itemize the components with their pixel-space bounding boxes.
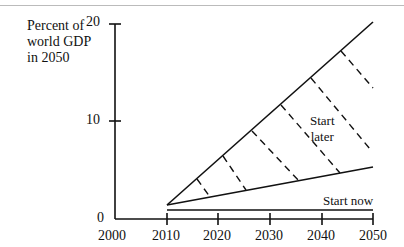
x-tick-2040: 2040 <box>307 228 335 244</box>
chart-plot <box>0 0 404 247</box>
x-tick-2050: 2050 <box>359 228 387 244</box>
y-tick-10: 10 <box>86 112 100 128</box>
start-now-label: Start now <box>323 193 373 209</box>
x-tick-2000: 2000 <box>98 228 126 244</box>
y-tick-20: 20 <box>86 14 100 30</box>
x-tick-2030: 2030 <box>255 228 283 244</box>
x-tick-2020: 2020 <box>203 228 231 244</box>
y-tick-0: 0 <box>97 210 104 226</box>
x-tick-2010: 2010 <box>152 228 180 244</box>
start-later-line2: later <box>310 129 335 145</box>
start-later-line1: Start <box>310 113 335 129</box>
start-later-label: Start later <box>310 113 335 145</box>
